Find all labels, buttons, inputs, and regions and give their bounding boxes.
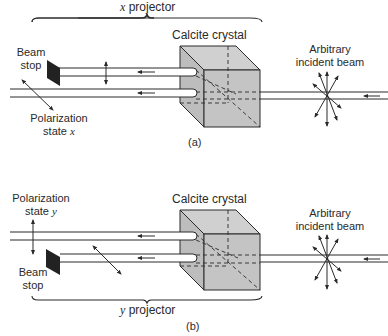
crystal-label-a: Calcite crystal — [172, 29, 247, 42]
y-projector-brace — [32, 296, 262, 303]
incident-beam-label-a: Arbitrary incident beam — [290, 43, 370, 69]
crystal-label-b: Calcite crystal — [172, 193, 247, 206]
beam-stop-a — [47, 60, 60, 86]
beam-stop-label-a: Beam stop — [14, 46, 48, 72]
y-projector-label: y projector — [120, 304, 175, 317]
polarization-label-b: Polarization state y — [8, 192, 74, 218]
caption-a: (a) — [188, 136, 201, 149]
polarization-label-a: Polarization state x — [26, 112, 92, 138]
beam-stop-label-b: Beam stop — [16, 266, 50, 292]
incident-beam-label-b: Arbitrary incident beam — [290, 207, 370, 233]
caption-b: (b) — [186, 320, 199, 333]
x-projector-label: x projector — [120, 1, 175, 14]
